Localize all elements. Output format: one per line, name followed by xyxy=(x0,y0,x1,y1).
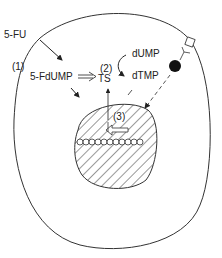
label-step3: (3) xyxy=(113,112,125,122)
label-ts: TS xyxy=(98,74,111,84)
label-5fu: 5-FU xyxy=(4,30,26,40)
label-dtmp: dTMP xyxy=(132,71,159,81)
uptake-arrow xyxy=(40,40,62,60)
label-step1: (1) xyxy=(12,62,24,72)
inhibition-arrow xyxy=(78,72,96,81)
diagram-canvas xyxy=(0,0,222,258)
label-dump: dUMP xyxy=(132,49,160,59)
transporter xyxy=(169,60,181,72)
dna-strand xyxy=(77,139,143,145)
label-5fdump: 5-FdUMP xyxy=(30,72,73,82)
